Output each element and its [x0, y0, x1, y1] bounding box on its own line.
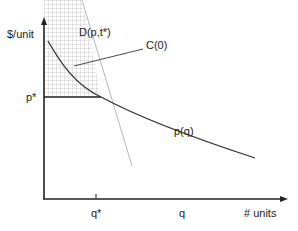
q-label: q — [179, 208, 185, 219]
diagram-canvas — [0, 0, 298, 231]
x-axis-label: # units — [244, 208, 276, 219]
y-axis-label: $/unit — [7, 29, 34, 40]
cost-label: C(0) — [146, 40, 167, 51]
price-curve-label: p(q) — [174, 126, 194, 137]
x-axis-arrow-icon — [280, 196, 288, 202]
demand-label: D(p,t*) — [79, 27, 111, 38]
q-star-label: q* — [91, 208, 101, 219]
price-star-label: p* — [26, 92, 36, 103]
